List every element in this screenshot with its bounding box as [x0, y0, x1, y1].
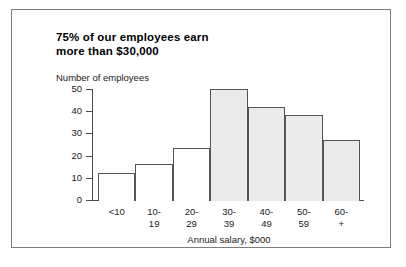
x-axis-category-line: 29	[173, 218, 210, 230]
x-axis-category-line: 39	[210, 218, 247, 230]
y-axis-tick: 30	[86, 133, 92, 134]
x-axis-category-line: 60-	[323, 206, 360, 218]
y-axis-tick: 0	[86, 200, 92, 201]
x-axis-category-label: 60-+	[323, 206, 360, 230]
y-axis-tick-label: 30	[71, 127, 82, 138]
x-axis-category-line: 30-	[210, 206, 247, 218]
x-axis-category-line: 10-	[135, 206, 172, 218]
x-axis-category-label: 30-39	[210, 206, 247, 230]
bar-series	[98, 89, 360, 201]
chart-figure: 75% of our employees earn more than $30,…	[0, 0, 406, 267]
bar-<10	[98, 173, 135, 201]
bar-40-49	[248, 107, 285, 201]
x-axis-category-line: <10	[98, 206, 135, 218]
figure-frame: 75% of our employees earn more than $30,…	[11, 9, 391, 248]
x-axis-category-line: 40-	[248, 206, 285, 218]
x-axis-category-label: <10	[98, 206, 135, 218]
y-axis-label: Number of employees	[56, 72, 149, 83]
x-axis-category-label: 40-49	[248, 206, 285, 230]
x-axis-category-line: 50-	[285, 206, 322, 218]
y-axis-tick: 20	[86, 156, 92, 157]
plot-area: 01020304050	[92, 89, 364, 200]
x-axis-category-label: 50-59	[285, 206, 322, 230]
x-axis-category-label: 20-29	[173, 206, 210, 230]
y-axis-tick-label: 50	[71, 83, 82, 94]
chart-title-line-2: more than $30,000	[56, 44, 356, 58]
x-axis-category-line: 19	[135, 218, 172, 230]
bar-10-19	[135, 164, 172, 201]
bar-30-39	[210, 89, 247, 201]
y-axis-tick-label: 0	[77, 194, 82, 205]
y-axis-tick-label: 20	[71, 150, 82, 161]
y-axis-tick: 40	[86, 111, 92, 112]
y-axis-tick-label: 10	[71, 172, 82, 183]
x-axis-label: Annual salary, $000	[98, 234, 360, 245]
y-axis-tick: 50	[86, 89, 92, 90]
x-axis-category-line: 59	[285, 218, 322, 230]
x-axis-category-line: 49	[248, 218, 285, 230]
y-axis-line	[92, 89, 93, 201]
bar-60-+	[323, 140, 360, 201]
x-axis-category-line: 20-	[173, 206, 210, 218]
y-axis-tick-label: 40	[71, 105, 82, 116]
bar-50-59	[285, 115, 322, 201]
x-axis-category-label: 10-19	[135, 206, 172, 230]
x-axis-category-line: +	[323, 218, 360, 230]
bar-20-29	[173, 148, 210, 201]
chart-title-line-1: 75% of our employees earn	[56, 30, 356, 44]
y-axis-tick: 10	[86, 178, 92, 179]
chart-title: 75% of our employees earn more than $30,…	[56, 30, 356, 58]
